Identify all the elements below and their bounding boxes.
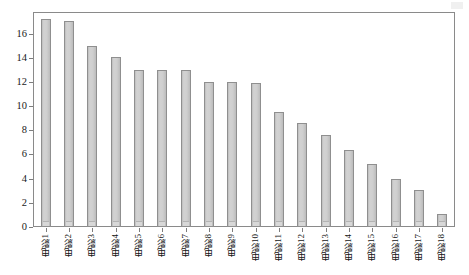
x-axis-tick-label: 电影10 <box>251 234 260 261</box>
bar-column[interactable] <box>344 13 354 227</box>
x-axis-tick-label: 电影1 <box>41 234 50 257</box>
y-axis-tick-mark <box>29 82 33 83</box>
x-axis-tick-mark <box>232 228 233 232</box>
bar-column[interactable] <box>414 13 424 227</box>
bar[interactable] <box>111 57 121 227</box>
y-axis-tick-label: 14 <box>17 52 28 63</box>
bar-base-marker <box>346 221 352 226</box>
bar-column[interactable] <box>41 13 51 227</box>
x-axis-tick-mark <box>46 228 47 232</box>
bar[interactable] <box>344 150 354 227</box>
bar[interactable] <box>251 83 261 227</box>
bar-column[interactable] <box>64 13 74 227</box>
x-axis-tick-mark <box>279 228 280 232</box>
x-axis-tick-label: 电影18 <box>437 234 446 261</box>
x-axis-tick-mark <box>372 228 373 232</box>
bar-base-marker <box>43 221 49 226</box>
x-axis-tick-mark <box>326 228 327 232</box>
x-axis-tick-label: 电影13 <box>321 234 330 261</box>
y-axis-tick-label: 8 <box>22 125 27 136</box>
bar[interactable] <box>41 19 51 227</box>
bar-column[interactable] <box>204 13 214 227</box>
bar-column[interactable] <box>437 13 447 227</box>
bar-base-marker <box>89 221 95 226</box>
bar-column[interactable] <box>367 13 377 227</box>
bar-column[interactable] <box>181 13 191 227</box>
bar-base-marker <box>229 221 235 226</box>
y-axis-tick-mark <box>29 179 33 180</box>
bar-base-marker <box>136 221 142 226</box>
x-axis-tick-label: 电影14 <box>344 234 353 261</box>
y-axis-tick-label: 10 <box>17 101 28 112</box>
x-axis-tick-mark <box>442 228 443 232</box>
x-axis-tick-label: 电影9 <box>227 234 236 257</box>
x-axis: 电影1电影2电影3电影4电影5电影6电影7电影8电影9电影10电影11电影12电… <box>34 228 454 275</box>
bar-column[interactable] <box>321 13 331 227</box>
bar[interactable] <box>414 190 424 227</box>
bar-chart: 0246810121416 电影1电影2电影3电影4电影5电影6电影7电影8电影… <box>0 0 469 275</box>
bar-column[interactable] <box>111 13 121 227</box>
x-axis-tick-label: 电影16 <box>391 234 400 261</box>
y-axis-tick-mark <box>29 106 33 107</box>
x-axis-tick-mark <box>186 228 187 232</box>
bar-base-marker <box>299 221 305 226</box>
bar[interactable] <box>181 70 191 227</box>
x-axis-tick-mark <box>209 228 210 232</box>
x-axis-tick-mark <box>349 228 350 232</box>
x-axis-tick-label: 电影17 <box>414 234 423 261</box>
x-axis-tick-label: 电影6 <box>157 234 166 257</box>
x-axis-tick-mark <box>419 228 420 232</box>
bar[interactable] <box>134 70 144 227</box>
x-axis-tick-mark <box>302 228 303 232</box>
x-axis-tick-mark <box>162 228 163 232</box>
x-axis-tick-label: 电影4 <box>111 234 120 257</box>
bar-column[interactable] <box>87 13 97 227</box>
bar-column[interactable] <box>227 13 237 227</box>
bar-column[interactable] <box>274 13 284 227</box>
x-axis-tick-label: 电影12 <box>297 234 306 261</box>
bar-base-marker <box>276 221 282 226</box>
y-axis-tick-mark <box>29 203 33 204</box>
bar-base-marker <box>183 221 189 226</box>
bar[interactable] <box>204 82 214 227</box>
bar-base-marker <box>323 221 329 226</box>
bar-base-marker <box>113 221 119 226</box>
y-axis-tick-label: 4 <box>22 173 27 184</box>
bar[interactable] <box>297 123 307 227</box>
bar-base-marker <box>206 221 212 226</box>
x-axis-tick-mark <box>116 228 117 232</box>
bar[interactable] <box>367 164 377 227</box>
bar-base-marker <box>416 221 422 226</box>
y-axis-tick-mark <box>29 58 33 59</box>
y-axis-tick-label: 0 <box>22 222 27 233</box>
y-axis-tick-label: 12 <box>17 77 28 88</box>
bar[interactable] <box>157 70 167 227</box>
bar[interactable] <box>437 214 447 227</box>
bar[interactable] <box>227 82 237 227</box>
x-axis-tick-mark <box>69 228 70 232</box>
y-axis-tick-mark <box>29 130 33 131</box>
bar-column[interactable] <box>134 13 144 227</box>
bar-column[interactable] <box>251 13 261 227</box>
bar[interactable] <box>321 135 331 227</box>
bar-base-marker <box>66 221 72 226</box>
y-axis-tick-label: 6 <box>22 149 27 160</box>
y-axis-tick-label: 2 <box>22 198 27 209</box>
bar-base-marker <box>253 221 259 226</box>
y-axis-tick-mark <box>29 154 33 155</box>
bar[interactable] <box>87 46 97 227</box>
y-axis-tick-mark <box>29 227 33 228</box>
y-axis-tick-mark <box>29 34 33 35</box>
bar-base-marker <box>439 221 445 226</box>
bar-column[interactable] <box>297 13 307 227</box>
x-axis-tick-mark <box>256 228 257 232</box>
bar-column[interactable] <box>157 13 167 227</box>
bar-column[interactable] <box>391 13 401 227</box>
x-axis-tick-label: 电影8 <box>204 234 213 257</box>
x-axis-tick-label: 电影5 <box>134 234 143 257</box>
bar[interactable] <box>391 179 401 227</box>
bar[interactable] <box>274 112 284 227</box>
x-axis-tick-label: 电影7 <box>181 234 190 257</box>
bar[interactable] <box>64 21 74 227</box>
bar-base-marker <box>393 221 399 226</box>
